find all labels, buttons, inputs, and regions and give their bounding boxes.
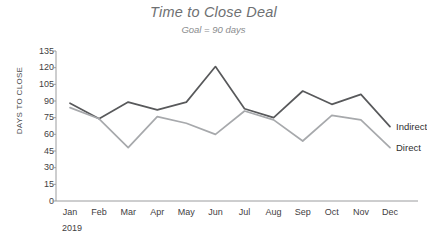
chart-plot-area <box>0 0 427 250</box>
series-label-indirect: Indirect <box>396 121 427 132</box>
series-line-direct <box>70 108 390 148</box>
chart-container: Time to Close Deal Goal = 90 days DAYS T… <box>0 0 427 250</box>
series-label-direct: Direct <box>396 142 421 153</box>
